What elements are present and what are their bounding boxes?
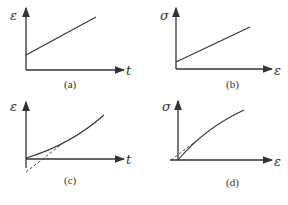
strain-time-line xyxy=(26,17,96,55)
x-axis-label: ε xyxy=(274,154,281,169)
x-axis-label: t xyxy=(126,63,132,78)
tangent-dashed-line xyxy=(26,144,62,172)
x-axis-label: t xyxy=(126,152,132,167)
panel-caption: (c) xyxy=(64,174,77,187)
y-axis-label: σ xyxy=(160,8,170,23)
y-axis-label: ε xyxy=(10,99,17,114)
panel-caption: (d) xyxy=(226,176,239,189)
panel-caption: (b) xyxy=(226,78,239,91)
panel-b: σ ε (b) xyxy=(160,8,281,91)
y-axis-label: ε xyxy=(10,8,17,23)
panel-d: σ ε (d) xyxy=(162,99,281,189)
panel-c: ε t (c) xyxy=(10,99,132,187)
figure: ε t (a) σ ε (b) ε t (c) σ ε (d) xyxy=(0,0,288,205)
panel-a: ε t (a) xyxy=(10,8,132,91)
strain-time-curve xyxy=(26,115,104,158)
stress-strain-line xyxy=(176,27,250,62)
tangent-dashed-line xyxy=(171,141,196,160)
panel-caption: (a) xyxy=(64,78,77,91)
y-axis-label: σ xyxy=(162,99,172,114)
x-axis-label: ε xyxy=(274,63,281,78)
stress-strain-curve xyxy=(178,110,244,160)
